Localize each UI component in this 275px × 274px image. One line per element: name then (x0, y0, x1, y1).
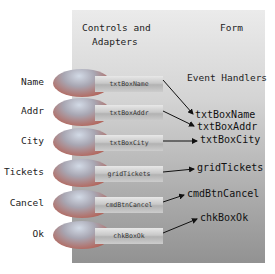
arrow-cancel (163, 195, 184, 202)
handler-gridtickets: gridTickets (197, 162, 263, 173)
handler-txtboxname: txtBoxName (195, 109, 255, 120)
arrow-addr (163, 111, 194, 126)
arrow-tickets (163, 169, 194, 172)
handler-cmdbtncancel: cmdBtnCancel (187, 188, 259, 199)
arrow-ok (163, 219, 197, 233)
arrow-name (163, 80, 193, 114)
handler-txtboxaddr: txtBoxAddr (197, 121, 257, 132)
handler-txtboxcity: txtBoxCity (200, 134, 260, 145)
handler-chkboxok: chkBoxOk (200, 212, 248, 223)
